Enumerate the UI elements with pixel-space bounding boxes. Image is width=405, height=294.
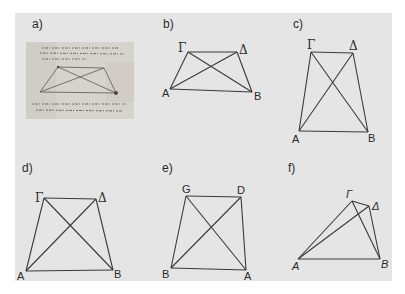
vertex-label-gamma: Γ [178, 41, 186, 55]
panel-c-figure: Γ Δ A B [292, 38, 375, 145]
edge-gamma-a [26, 198, 44, 271]
diagonal-delta-a [299, 53, 353, 131]
diagonal-d-b [171, 197, 241, 268]
edge-delta-b [353, 53, 368, 132]
edge-d-a [241, 197, 246, 270]
vertex-label-delta: Δ [239, 43, 248, 57]
vertex-label-g: G [182, 183, 191, 195]
vertex-label-d: D [237, 184, 245, 196]
edge-a-b [26, 270, 113, 271]
panel-b-figure: Γ Δ A B [162, 41, 261, 102]
edge-g-b [171, 196, 186, 268]
vertex-label-a: A [292, 133, 300, 145]
edge-delta-b [96, 199, 113, 270]
edge-a-b [170, 89, 252, 92]
edge-b-a [171, 268, 246, 270]
diagonal-gamma-b [311, 52, 368, 132]
edge-delta-b [369, 206, 380, 259]
diagonal-delta-a [26, 199, 96, 271]
diagonal-gamma-b [188, 52, 252, 92]
diagonal-g-a [186, 196, 246, 270]
vertex-label-b: B [381, 258, 388, 270]
vertex-label-b: B [254, 90, 261, 102]
edge-gamma-delta [44, 198, 96, 199]
vertex-label-a: A [244, 270, 252, 282]
vertex-label-gamma: Γ [307, 38, 315, 52]
vertex-label-gamma: Γ [346, 188, 353, 200]
vertex-label-delta: Δ [349, 39, 358, 53]
panel-e-figure: G D B A [162, 183, 252, 282]
vertex-label-gamma: Γ [35, 191, 43, 205]
edge-delta-b [237, 52, 252, 92]
vertex-label-b: B [162, 268, 169, 280]
diagonal-gamma-b [44, 198, 113, 270]
vertex-label-a: A [162, 87, 170, 99]
vertex-label-b: B [368, 132, 375, 144]
edge-gamma-delta [311, 52, 353, 53]
vertex-label-a: A [17, 270, 25, 282]
edge-gamma-a [299, 52, 311, 131]
edge-g-d [186, 196, 241, 197]
vertex-label-a: A [291, 260, 299, 272]
vertex-label-b: B [114, 268, 121, 280]
panel-f-figure: Γ Δ A B [291, 188, 388, 272]
geometry-figures: Γ Δ A B Γ Δ A B Γ Δ A B G D [0, 0, 405, 294]
vertex-label-delta: Δ [98, 191, 107, 205]
edge-a-b [299, 131, 368, 132]
diagonal-delta-a [298, 206, 369, 259]
vertex-label-delta: Δ [371, 200, 379, 212]
diagonal-delta-a [170, 52, 237, 89]
panel-d-figure: Γ Δ A B [17, 191, 121, 282]
edge-gamma-a [298, 201, 352, 259]
